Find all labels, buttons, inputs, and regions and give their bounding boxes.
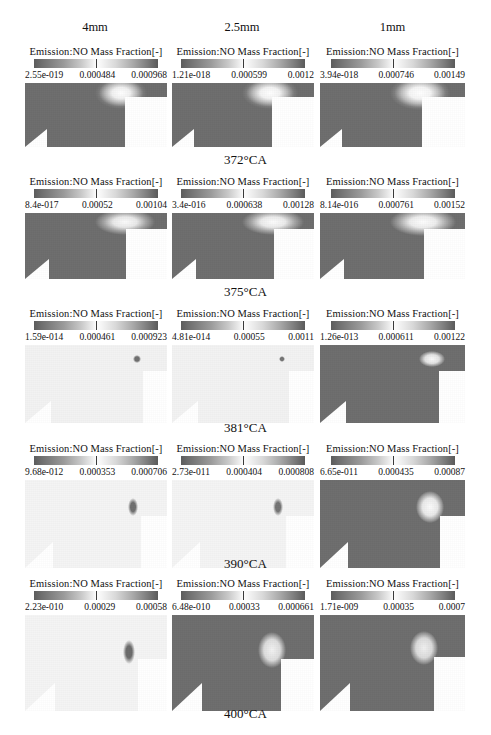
column-header-2p5mm: 2.5mm <box>172 20 312 35</box>
colorbar-max-value: 0.00128 <box>283 199 314 211</box>
colorbar-min-value: 1.59e-014 <box>25 331 63 343</box>
colorbar-values: 1.59e-014 0.000461 0.000923 <box>25 331 167 343</box>
colorbar <box>34 189 158 198</box>
colorbar-min-value: 1.26e-013 <box>320 331 358 343</box>
colorbar-values: 8.14e-016 0.000761 0.00152 <box>320 199 465 211</box>
contour-image <box>320 345 465 423</box>
colorbar-values: 2.23e-010 0.00029 0.00058 <box>25 601 167 613</box>
colorbar-mid-value: 0.000599 <box>231 69 267 81</box>
colorbar <box>34 591 158 600</box>
colorbar-max-value: 0.000968 <box>131 69 167 81</box>
column-header-row: 4mm 2.5mm 1mm <box>0 20 491 38</box>
colorbar <box>34 321 158 330</box>
colorbar <box>34 456 158 465</box>
colorbar-min-value: 8.14e-016 <box>320 199 358 211</box>
colorbar-max-value: 0.000808 <box>278 466 314 478</box>
colorbar-values: 6.65e-011 0.000435 0.00087 <box>320 466 465 478</box>
colorbar-mid-value: 0.000404 <box>226 466 262 478</box>
colorbar-values: 1.71e-009 0.00035 0.0007 <box>320 601 465 613</box>
colorbar-title: Emission:NO Mass Fraction[-] <box>320 46 465 58</box>
colorbar-min-value: 9.68e-012 <box>25 466 63 478</box>
colorbar-midpoint-tick <box>243 321 244 330</box>
colorbar-values: 1.21e-018 0.000599 0.0012 <box>172 69 314 81</box>
colorbar <box>331 456 455 465</box>
colorbar-values: 9.68e-012 0.000353 0.000706 <box>25 466 167 478</box>
colorbar-min-value: 8.4e-017 <box>25 199 59 211</box>
colorbar-values: 4.81e-014 0.00055 0.0011 <box>172 331 314 343</box>
colorbar-min-value: 6.65e-011 <box>320 466 358 478</box>
colorbar-max-value: 0.000706 <box>131 466 167 478</box>
panel-390ca-4mm: Emission:NO Mass Fraction[-] 9.68e-012 0… <box>25 443 167 568</box>
colorbar-mid-value: 0.00055 <box>234 331 265 343</box>
colorbar-values: 1.26e-013 0.000611 0.00122 <box>320 331 465 343</box>
colorbar-midpoint-tick <box>96 59 97 68</box>
colorbar-max-value: 0.00122 <box>434 331 465 343</box>
colorbar <box>181 456 305 465</box>
contour-image <box>25 480 167 568</box>
colorbar-title: Emission:NO Mass Fraction[-] <box>25 578 167 590</box>
panel-381ca-4mm: Emission:NO Mass Fraction[-] 1.59e-014 0… <box>25 308 167 423</box>
colorbar-mid-value: 0.000484 <box>80 69 116 81</box>
column-header-1mm: 1mm <box>320 20 465 35</box>
colorbar-title: Emission:NO Mass Fraction[-] <box>25 46 167 58</box>
contour-image <box>320 83 465 147</box>
colorbar <box>331 59 455 68</box>
colorbar-mid-value: 0.000435 <box>378 466 414 478</box>
colorbar-title: Emission:NO Mass Fraction[-] <box>320 308 465 320</box>
colorbar-title: Emission:NO Mass Fraction[-] <box>172 308 314 320</box>
colorbar-mid-value: 0.000761 <box>378 199 414 211</box>
colorbar-midpoint-tick <box>96 456 97 465</box>
panel-390ca-2p5mm: Emission:NO Mass Fraction[-] 2.73e-011 0… <box>172 443 314 568</box>
panel-372ca-1mm: Emission:NO Mass Fraction[-] 3.94e-018 0… <box>320 46 465 147</box>
colorbar-midpoint-tick <box>96 189 97 198</box>
colorbar-min-value: 2.73e-011 <box>172 466 210 478</box>
contour-image <box>172 83 314 147</box>
colorbar-min-value: 3.94e-018 <box>320 69 358 81</box>
panel-372ca-2p5mm: Emission:NO Mass Fraction[-] 1.21e-018 0… <box>172 46 314 147</box>
colorbar-min-value: 1.21e-018 <box>172 69 210 81</box>
colorbar-title: Emission:NO Mass Fraction[-] <box>25 176 167 188</box>
row-caption-381ca: 381°CA <box>0 420 491 436</box>
contour-image <box>172 345 314 423</box>
row-caption-372ca: 372°CA <box>0 152 491 168</box>
colorbar-title: Emission:NO Mass Fraction[-] <box>172 176 314 188</box>
panel-381ca-1mm: Emission:NO Mass Fraction[-] 1.26e-013 0… <box>320 308 465 423</box>
colorbar <box>181 591 305 600</box>
colorbar-max-value: 0.000923 <box>131 331 167 343</box>
colorbar-min-value: 1.71e-009 <box>320 601 358 613</box>
colorbar-mid-value: 0.000746 <box>378 69 414 81</box>
contour-image <box>320 480 465 568</box>
colorbar-values: 6.48e-010 0.00033 0.000661 <box>172 601 314 613</box>
colorbar <box>331 591 455 600</box>
row-caption-375ca: 375°CA <box>0 284 491 300</box>
column-header-4mm: 4mm <box>25 20 165 35</box>
colorbar-title: Emission:NO Mass Fraction[-] <box>320 176 465 188</box>
colorbar <box>181 321 305 330</box>
colorbar-title: Emission:NO Mass Fraction[-] <box>25 308 167 320</box>
contour-image <box>25 213 167 279</box>
contour-image <box>172 480 314 568</box>
colorbar-min-value: 4.81e-014 <box>172 331 210 343</box>
colorbar-min-value: 3.4e-016 <box>172 199 206 211</box>
colorbar-midpoint-tick <box>96 321 97 330</box>
colorbar <box>34 59 158 68</box>
colorbar-max-value: 0.00149 <box>434 69 465 81</box>
colorbar-mid-value: 0.000353 <box>80 466 116 478</box>
colorbar-midpoint-tick <box>393 591 394 600</box>
colorbar-midpoint-tick <box>243 59 244 68</box>
colorbar-midpoint-tick <box>393 456 394 465</box>
colorbar-mid-value: 0.000611 <box>379 331 414 343</box>
contour-image <box>320 615 465 711</box>
row-caption-390ca: 390°CA <box>0 556 491 572</box>
colorbar-max-value: 0.0007 <box>439 601 465 613</box>
colorbar-midpoint-tick <box>243 591 244 600</box>
colorbar-title: Emission:NO Mass Fraction[-] <box>172 443 314 455</box>
colorbar-max-value: 0.00152 <box>434 199 465 211</box>
panel-372ca-4mm: Emission:NO Mass Fraction[-] 2.55e-019 0… <box>25 46 167 147</box>
colorbar-midpoint-tick <box>393 189 394 198</box>
colorbar-values: 3.4e-016 0.000638 0.00128 <box>172 199 314 211</box>
row-caption-400ca: 400°CA <box>0 706 491 722</box>
panel-381ca-2p5mm: Emission:NO Mass Fraction[-] 4.81e-014 0… <box>172 308 314 423</box>
contour-image <box>25 615 167 711</box>
colorbar <box>331 189 455 198</box>
